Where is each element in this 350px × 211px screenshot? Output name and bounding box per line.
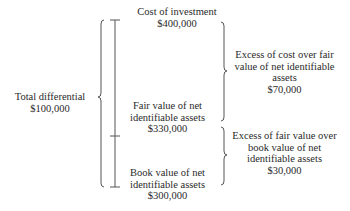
fair-value-line1: Fair value of net [120,100,215,112]
book-value-value: $300,000 [120,190,215,202]
fair-value-label: Fair value of net identifiable assets $3… [120,100,215,135]
excess-fair-value: $30,000 [232,165,337,177]
total-differential-value: $100,000 [5,103,95,115]
excess-cost-line2: value of net identifiable [232,61,337,73]
excess-fair-line1: Excess of fair value over [232,130,337,142]
excess-cost-line1: Excess of cost over fair [232,49,337,61]
excess-cost-line3: assets [232,72,337,84]
cost-of-investment-value: $400,000 [122,18,232,30]
lower-right-brace [221,127,227,185]
cost-of-investment-label: Cost of investment $400,000 [122,6,232,29]
left-brace [98,20,104,187]
upper-right-brace [221,22,227,121]
total-differential-text: Total differential [5,91,95,103]
cost-of-investment-text: Cost of investment [122,6,232,18]
total-differential-label: Total differential $100,000 [5,91,95,114]
book-value-line2: identifiable assets [120,179,215,191]
book-value-line1: Book value of net [120,167,215,179]
excess-fair-line3: identifiable assets [232,153,337,165]
excess-fair-over-book-label: Excess of fair value over book value of … [232,130,337,176]
book-value-label: Book value of net identifiable assets $3… [120,167,215,202]
fair-value-value: $330,000 [120,123,215,135]
excess-cost-over-fair-label: Excess of cost over fair value of net id… [232,49,337,95]
excess-cost-value: $70,000 [232,84,337,96]
excess-fair-line2: book value of net [232,142,337,154]
fair-value-line2: identifiable assets [120,112,215,124]
